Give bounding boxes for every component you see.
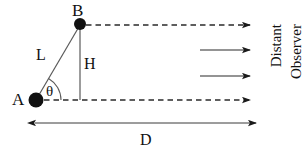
point-a-marker — [29, 93, 44, 108]
label-point-a: A — [12, 91, 24, 108]
label-angle-theta: θ — [46, 84, 53, 99]
label-height-h: H — [84, 56, 96, 72]
label-distance-d: D — [140, 132, 152, 148]
observer-label-line-1: Distant — [268, 24, 285, 67]
observer-label-group: Distant Observer — [252, 24, 304, 132]
observer-label-line-2: Observer — [288, 24, 304, 79]
label-point-b: B — [72, 2, 83, 19]
diagram-canvas: A B L H D θ Distant Observer — [0, 0, 304, 155]
label-length-l: L — [36, 47, 46, 63]
